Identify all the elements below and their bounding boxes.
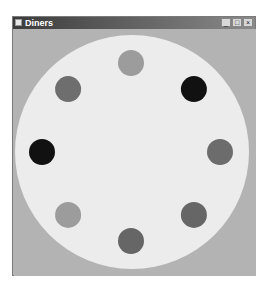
diners-window: Diners _ □ × bbox=[12, 16, 256, 276]
dining-table-canvas bbox=[14, 29, 256, 276]
diner-top bbox=[118, 50, 144, 76]
diner-bottom-right bbox=[181, 202, 207, 228]
diner-left bbox=[29, 139, 55, 165]
maximize-button[interactable]: □ bbox=[232, 18, 242, 27]
minimize-button[interactable]: _ bbox=[221, 18, 231, 27]
diner-bottom bbox=[118, 228, 144, 254]
window-title: Diners bbox=[25, 17, 53, 29]
app-icon[interactable] bbox=[15, 19, 22, 26]
title-bar[interactable]: Diners _ □ × bbox=[13, 17, 255, 29]
diner-bottom-left bbox=[55, 202, 81, 228]
diner-top-right bbox=[181, 76, 207, 102]
diner-top-left bbox=[55, 76, 81, 102]
client-area bbox=[14, 29, 254, 274]
window-controls: _ □ × bbox=[221, 18, 253, 27]
diner-right bbox=[207, 139, 233, 165]
close-button[interactable]: × bbox=[243, 18, 253, 27]
